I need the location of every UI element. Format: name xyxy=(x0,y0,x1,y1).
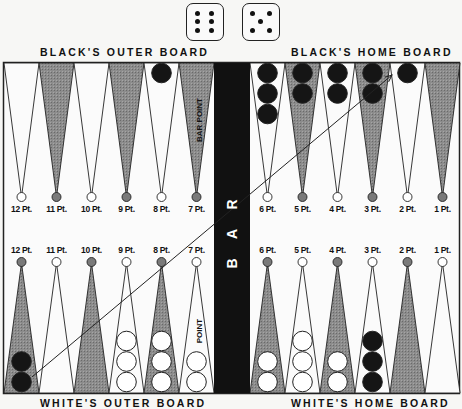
top-point-label: 3 Pt. xyxy=(355,204,390,214)
top-point-label: 4 Pt. xyxy=(320,204,355,214)
white-checker[interactable] xyxy=(293,331,313,351)
bar-label: B A R xyxy=(214,170,250,290)
bottom-point-label: 8 Pt. xyxy=(144,245,179,255)
bottom-point-label: 1 Pt. xyxy=(425,245,460,255)
white-checker[interactable] xyxy=(328,372,348,392)
white-checker[interactable] xyxy=(258,372,278,392)
black-checker[interactable] xyxy=(12,372,32,392)
white-checker[interactable] xyxy=(117,372,137,392)
black-checker[interactable] xyxy=(293,63,313,83)
bottom-point-label: 6 Pt. xyxy=(250,245,285,255)
top-point-label: 1 Pt. xyxy=(425,204,460,214)
black-checker[interactable] xyxy=(328,63,348,83)
top-point-label: 9 Pt. xyxy=(109,204,144,214)
white-checker[interactable] xyxy=(328,352,348,372)
bar-point-label-top: BAR POINT xyxy=(181,80,216,160)
black-checker[interactable] xyxy=(258,104,278,124)
white-checker[interactable] xyxy=(152,331,172,351)
top-point-label: 2 Pt. xyxy=(390,204,425,214)
white-checker[interactable] xyxy=(258,352,278,372)
black-checker[interactable] xyxy=(363,84,383,104)
black-checker[interactable] xyxy=(152,63,172,83)
bottom-point-label: 5 Pt. xyxy=(285,245,320,255)
black-checker[interactable] xyxy=(398,63,418,83)
black-checker[interactable] xyxy=(328,84,348,104)
black-checker[interactable] xyxy=(258,63,278,83)
top-point-label: 12 Pt. xyxy=(4,204,39,214)
bottom-point-label: 4 Pt. xyxy=(320,245,355,255)
white-checker[interactable] xyxy=(293,352,313,372)
top-point-label: 6 Pt. xyxy=(250,204,285,214)
black-checker[interactable] xyxy=(363,372,383,392)
black-checker[interactable] xyxy=(258,84,278,104)
top-point-label: 5 Pt. xyxy=(285,204,320,214)
white-checker[interactable] xyxy=(117,352,137,372)
white-checker[interactable] xyxy=(152,352,172,372)
white-checker[interactable] xyxy=(187,372,207,392)
black-checker[interactable] xyxy=(293,84,313,104)
bottom-point-label: 11 Pt. xyxy=(39,245,74,255)
bottom-point-label: 10 Pt. xyxy=(74,245,109,255)
top-point-label: 8 Pt. xyxy=(144,204,179,214)
black-checker[interactable] xyxy=(363,331,383,351)
bottom-point-label: 7 Pt. xyxy=(179,245,214,255)
bar-point-label-bottom: POINT xyxy=(181,306,216,356)
white-checker[interactable] xyxy=(293,372,313,392)
black-checker[interactable] xyxy=(363,63,383,83)
top-point-label: 11 Pt. xyxy=(39,204,74,214)
white-checker[interactable] xyxy=(152,372,172,392)
bottom-point-label: 3 Pt. xyxy=(355,245,390,255)
black-checker[interactable] xyxy=(12,352,32,372)
top-point-label: 7 Pt. xyxy=(179,204,214,214)
black-checker[interactable] xyxy=(363,352,383,372)
top-point-label: 10 Pt. xyxy=(74,204,109,214)
bottom-point-label: 9 Pt. xyxy=(109,245,144,255)
bottom-point-label: 12 Pt. xyxy=(4,245,39,255)
white-checker[interactable] xyxy=(117,331,137,351)
bottom-point-label: 2 Pt. xyxy=(390,245,425,255)
